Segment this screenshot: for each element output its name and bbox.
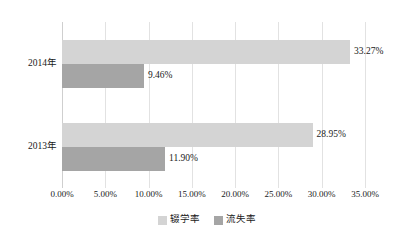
bar-value-label: 9.46% [144, 71, 173, 81]
x-tick-label: 35.00% [351, 190, 379, 199]
x-tick-label: 30.00% [308, 190, 336, 199]
plot-area: 33.27%9.46%28.95%11.90% [62, 22, 365, 188]
x-tick-label: 25.00% [265, 190, 293, 199]
bar-row: 11.90% [62, 147, 365, 171]
bar[interactable] [62, 123, 313, 147]
legend-item[interactable]: 辍学率 [158, 215, 200, 225]
bar-row: 33.27% [62, 40, 365, 64]
bar-value-label: 33.27% [350, 47, 383, 57]
bar-chart: 33.27%9.46%28.95%11.90% 2014年2013年 0.00%… [0, 0, 413, 230]
bar[interactable] [62, 40, 350, 64]
legend-item[interactable]: 流失率 [214, 215, 256, 225]
x-tick-label: 20.00% [221, 190, 249, 199]
bar-group: 33.27%9.46% [62, 40, 365, 88]
bar-row: 9.46% [62, 64, 365, 88]
bar[interactable] [62, 64, 144, 88]
chart-legend: 辍学率流失率 [0, 212, 413, 228]
bar-row: 28.95% [62, 123, 365, 147]
x-tick-label: 10.00% [135, 190, 163, 199]
category-axis: 2014年2013年 [0, 22, 57, 188]
legend-label: 流失率 [226, 215, 256, 225]
x-tick-label: 0.00% [50, 190, 73, 199]
bar-group: 28.95%11.90% [62, 123, 365, 171]
bar-value-label: 11.90% [165, 154, 198, 164]
x-tick-label: 5.00% [94, 190, 117, 199]
legend-swatch-icon [158, 216, 167, 225]
bar[interactable] [62, 147, 165, 171]
bar-value-label: 28.95% [313, 130, 346, 140]
x-axis-ticks: 0.00%5.00%10.00%15.00%20.00%25.00%30.00%… [62, 190, 365, 204]
legend-swatch-icon [214, 216, 223, 225]
category-label: 2013年 [28, 142, 57, 152]
x-tick-label: 15.00% [178, 190, 206, 199]
legend-label: 辍学率 [170, 215, 200, 225]
category-label: 2014年 [28, 59, 57, 69]
